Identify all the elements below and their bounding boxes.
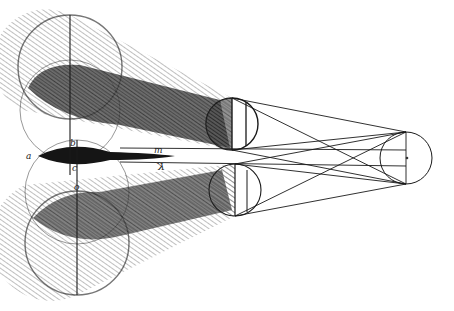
label-a: a [26, 151, 31, 161]
target-center-dot [406, 157, 409, 160]
optics-diagram: a b c m K o [0, 0, 454, 311]
label-c: c [72, 163, 77, 173]
small-spheres [206, 98, 261, 216]
label-m: m [154, 145, 163, 155]
label-o: o [74, 182, 80, 192]
label-b: b [70, 138, 76, 148]
label-k: K [156, 162, 165, 172]
drawing-canvas: a b c m K o [0, 0, 454, 311]
